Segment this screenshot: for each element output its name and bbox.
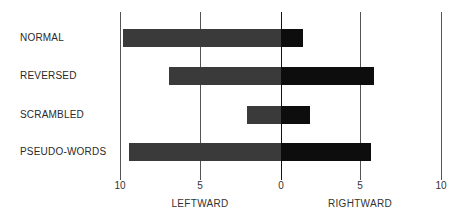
row-label-reversed: REVERSED [20,70,77,82]
bar-scrambled-rightward [281,106,310,124]
bar-pseudo-words-leftward [129,143,281,161]
tick-label-left-5: 5 [185,180,215,191]
gridline-left-10 [120,12,121,180]
bar-normal-rightward [281,29,303,47]
row-label-normal: NORMAL [20,32,64,44]
bar-normal-leftward [123,29,281,47]
tick-label-right-10: 10 [426,180,456,191]
row-label-pseudo-words: PSEUDO-WORDS [20,146,106,158]
tick-label-right-5: 5 [345,180,375,191]
bar-reversed-rightward [281,67,374,85]
tick-label-zero: 0 [266,180,296,191]
axis-label-rightward: RIGHTWARD [300,198,420,209]
tick-label-left-10: 10 [105,180,135,191]
axis-label-leftward: LEFTWARD [140,198,260,209]
bar-scrambled-leftward [247,106,281,124]
bar-reversed-leftward [169,67,281,85]
row-label-scrambled: SCRAMBLED [20,109,84,121]
gridline-right-10 [441,12,442,180]
diverging-bar-chart: NORMAL REVERSED SCRAMBLED PSEUDO-WORDS 1… [0,0,460,215]
bar-pseudo-words-rightward [281,143,371,161]
